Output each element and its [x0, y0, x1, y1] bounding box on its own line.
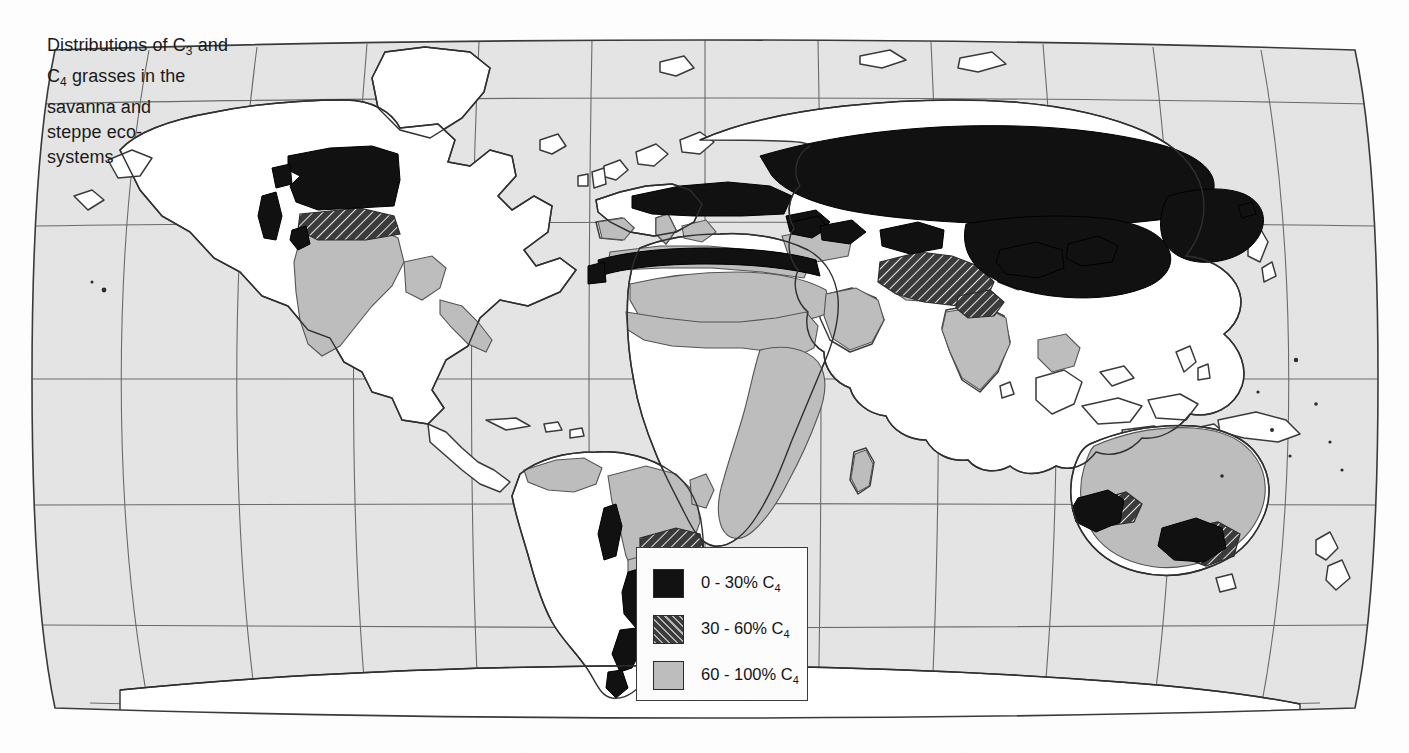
- caption-line-2-b: grasses in the: [67, 66, 186, 86]
- map-legend: 0 - 30% C4 30 - 60% C4 60 - 100% C4: [636, 547, 808, 701]
- legend-subscript-4: 4: [784, 628, 790, 640]
- caption-line-1-a: Distributions of C: [47, 35, 186, 55]
- legend-item-0-30: 0 - 30% C4: [653, 562, 807, 604]
- hatched-fill-swatch: [653, 615, 684, 644]
- figure-caption: Distributions of C3 and C4 grasses in th…: [47, 33, 257, 170]
- legend-item-30-60: 30 - 60% C4: [653, 608, 807, 650]
- legend-item-60-100: 60 - 100% C4: [653, 654, 807, 696]
- legend-label-60-100: 60 - 100% C4: [701, 665, 799, 686]
- caption-subscript-4: 4: [60, 75, 67, 89]
- caption-line-1-b: and: [193, 35, 228, 55]
- caption-line-2-a: C: [47, 66, 60, 86]
- caption-line-3: savanna and: [47, 97, 151, 117]
- legend-label-30-60: 30 - 60% C4: [701, 619, 790, 640]
- legend-subscript-4: 4: [793, 674, 799, 686]
- legend-label-0-30: 0 - 30% C4: [701, 573, 781, 594]
- caption-subscript-3: 3: [186, 44, 193, 58]
- caption-line-4: steppe eco-: [47, 122, 142, 142]
- legend-subscript-4: 4: [774, 582, 780, 594]
- caption-line-5: systems: [47, 147, 114, 167]
- gray-fill-swatch: [653, 661, 684, 690]
- black-fill-swatch: [653, 569, 684, 598]
